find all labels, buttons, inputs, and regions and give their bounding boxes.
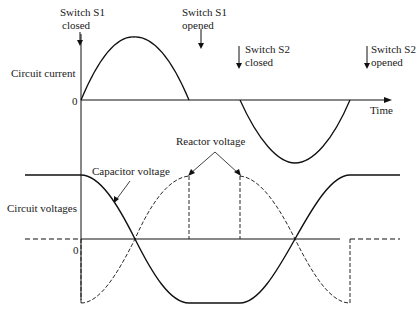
s1-opened-label-line2: opened	[182, 19, 214, 31]
s1-opened-arrow-icon	[198, 43, 204, 49]
circuit-current-label: Circuit current	[11, 67, 75, 79]
s2-closed-label-line1: Switch S2	[245, 43, 290, 55]
s2-opened-label-line1: Switch S2	[371, 43, 416, 55]
s2-closed-label-line2: closed	[245, 56, 273, 68]
time-arrow-icon	[384, 97, 392, 103]
reactor-pointer-2	[215, 152, 238, 173]
reactor-pointer-1	[191, 152, 215, 173]
s1-closed-label-line1: Switch S1	[60, 6, 105, 18]
waveform-diagram	[0, 0, 416, 314]
current-negative-lobe	[240, 100, 350, 163]
time-label: Time	[370, 104, 393, 116]
s1-closed-label-line2: closed	[62, 19, 90, 31]
current-positive-lobe	[81, 37, 189, 100]
s2-closed-arrow-icon	[236, 63, 242, 69]
reactor-voltage-label: Reactor voltage	[176, 135, 245, 147]
capacitor-pointer	[116, 181, 130, 200]
s1-closed-arrow-icon	[77, 40, 83, 46]
capacitor-voltage-label: Capacitor voltage	[92, 165, 170, 177]
s2-opened-label-line2: opened	[371, 56, 403, 68]
zero-bottom-label: 0	[73, 244, 79, 256]
s1-opened-label-line1: Switch S1	[182, 6, 227, 18]
s2-opened-arrow-icon	[364, 63, 370, 69]
circuit-voltages-label: Circuit voltages	[7, 202, 77, 214]
zero-top-label: 0	[72, 95, 78, 107]
